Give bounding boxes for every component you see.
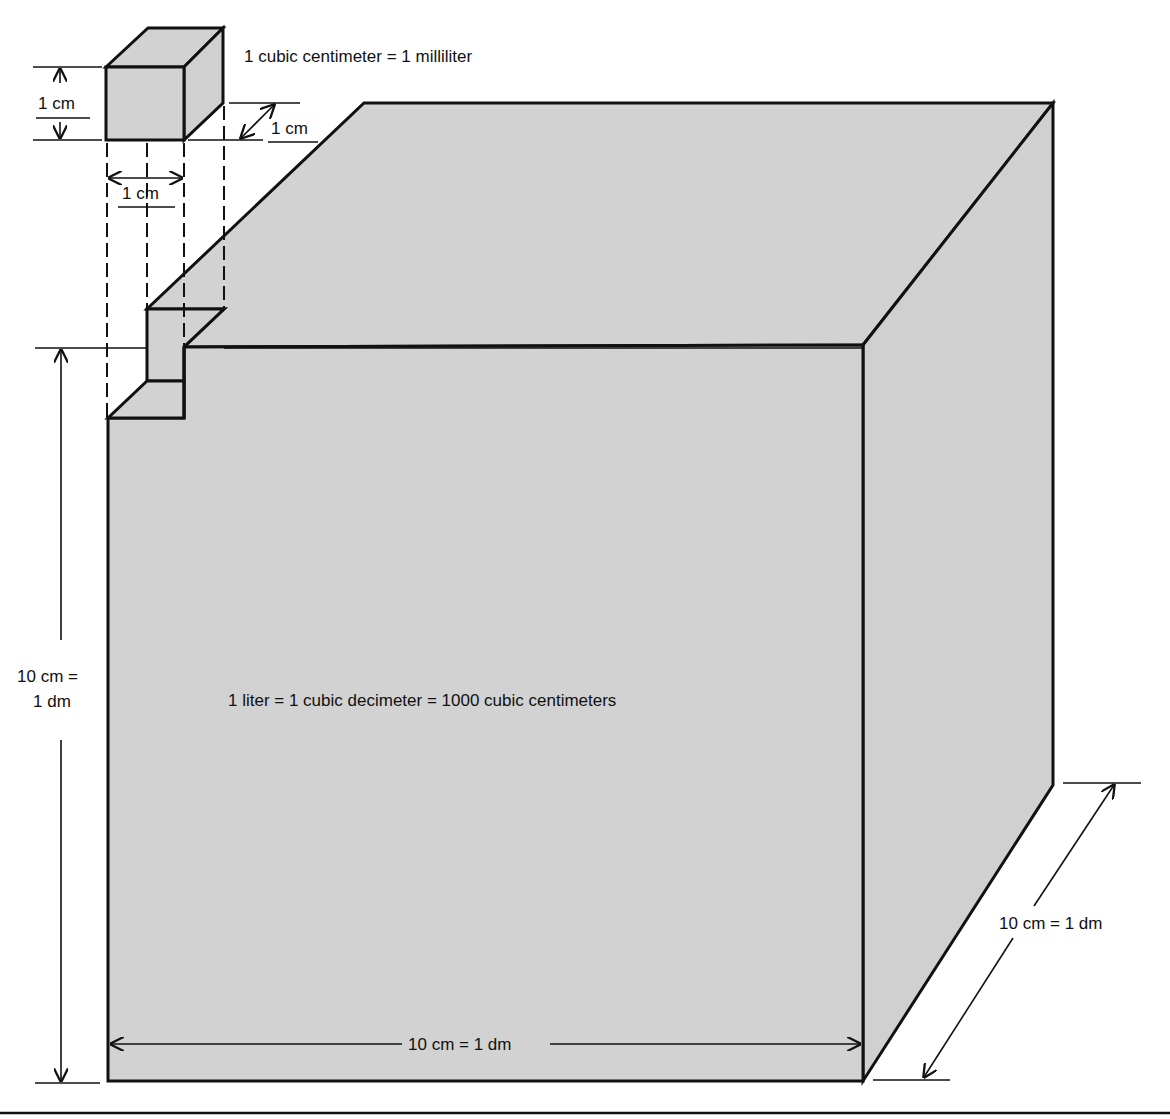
large-cube-height-label-1: 10 cm =	[17, 667, 78, 686]
notch-bottom-face	[108, 381, 184, 418]
small-cube-front-face	[106, 67, 184, 140]
small-cube-height-label: 1 cm	[38, 94, 75, 113]
large-cube-caption: 1 liter = 1 cubic decimeter = 1000 cubic…	[228, 691, 616, 710]
small-cube-depth-label: 1 cm	[271, 119, 308, 138]
small-cube-caption: 1 cubic centimeter = 1 milliliter	[244, 47, 473, 66]
volume-diagram: 1 cubic centimeter = 1 milliliter 1 cm 1…	[0, 0, 1170, 1119]
large-cube-front-face	[108, 345, 863, 1081]
small-cube	[106, 28, 223, 140]
large-cube-height-label-2: 1 dm	[33, 692, 71, 711]
large-cube	[108, 103, 1053, 1081]
large-cube-depth-label: 10 cm = 1 dm	[999, 914, 1102, 933]
large-cube-width-label: 10 cm = 1 dm	[408, 1035, 511, 1054]
small-cube-width-label: 1 cm	[122, 184, 159, 203]
